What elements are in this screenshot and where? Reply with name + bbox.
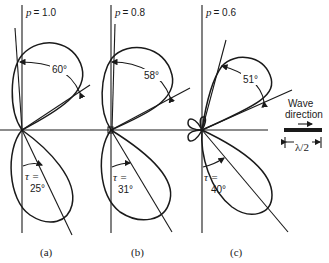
tau-value-b: 31°: [118, 184, 133, 195]
legend-direction-label: direction: [285, 109, 323, 120]
caption-c: (c): [230, 246, 243, 259]
tilt-arc-c: [203, 158, 224, 167]
tau-value-c: 40°: [211, 184, 226, 195]
upper-lobe-a: [12, 43, 83, 130]
lower-lobe-a: [11, 130, 73, 222]
lower-lobe-b: [101, 130, 170, 220]
radiation-pattern-figure: 60° τ = 25° p= 1.0 (a) 58° τ = 31° p= 0.…: [0, 0, 329, 263]
wave-direction-legend: Wave direction λ/2: [284, 98, 323, 153]
tilt-arc-b: [112, 163, 130, 167]
tau-label-b: τ =: [113, 171, 127, 183]
tau-label-c: τ =: [204, 171, 218, 183]
beam-edge-line-a1: [15, 28, 22, 130]
caption-a: (a): [40, 246, 53, 259]
beamwidth-label-b: 58°: [144, 70, 159, 81]
beam-edge-line-b2: [111, 88, 190, 130]
beamwidth-label-a: 60°: [52, 64, 67, 75]
panel-a: 60° τ = 25° p= 1.0 (a): [11, 5, 90, 259]
beamwidth-label-c: 51°: [243, 74, 258, 85]
tau-label-a: τ =: [25, 170, 39, 182]
p-label-b: p= 0.8: [114, 6, 145, 18]
panel-c: 51° τ = 40° p= 0.6 (c): [188, 5, 292, 259]
p-label-c: p= 0.6: [205, 6, 236, 18]
beam-edge-line-c2: [202, 90, 292, 130]
panel-b: 58° τ = 31° p= 0.8 (b): [101, 5, 190, 259]
small-back-lobe-c-lower: [188, 130, 202, 141]
legend-dimension-label: λ/2: [295, 141, 309, 153]
p-label-a: p= 1.0: [25, 6, 56, 18]
beam-edge-line-b1: [112, 24, 115, 130]
tau-value-a: 25°: [30, 183, 45, 194]
legend-wave-label: Wave: [288, 98, 314, 109]
beam-edge-line-c1: [202, 40, 226, 130]
antenna-bar: [284, 128, 322, 132]
caption-b: (b): [131, 246, 144, 259]
